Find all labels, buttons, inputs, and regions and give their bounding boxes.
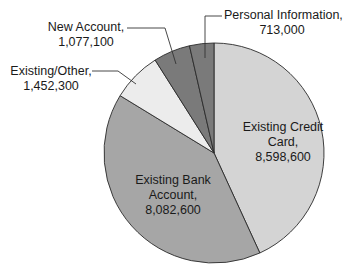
- label-bank-value: 8,082,600: [128, 203, 218, 218]
- label-credit-line2: Card,: [238, 135, 328, 150]
- label-other-line1: Existing/Other,: [8, 64, 94, 79]
- label-existing-credit-card: Existing Credit Card, 8,598,600: [238, 120, 328, 165]
- label-other-value: 1,452,300: [8, 79, 94, 94]
- label-credit-value: 8,598,600: [238, 150, 328, 165]
- label-existing-bank-account: Existing Bank Account, 8,082,600: [128, 173, 218, 218]
- label-personal-value: 713,000: [224, 23, 340, 38]
- label-bank-line1: Existing Bank: [128, 173, 218, 188]
- label-new-account: New Account, 1,077,100: [46, 20, 126, 50]
- label-credit-line1: Existing Credit: [238, 120, 328, 135]
- label-new-account-line1: New Account,: [46, 20, 126, 35]
- label-bank-line2: Account,: [128, 188, 218, 203]
- label-existing-other: Existing/Other, 1,452,300: [8, 64, 94, 94]
- label-new-account-value: 1,077,100: [46, 35, 126, 50]
- label-personal-information: Personal Information, 713,000: [224, 8, 340, 38]
- label-personal-line1: Personal Information,: [224, 8, 340, 23]
